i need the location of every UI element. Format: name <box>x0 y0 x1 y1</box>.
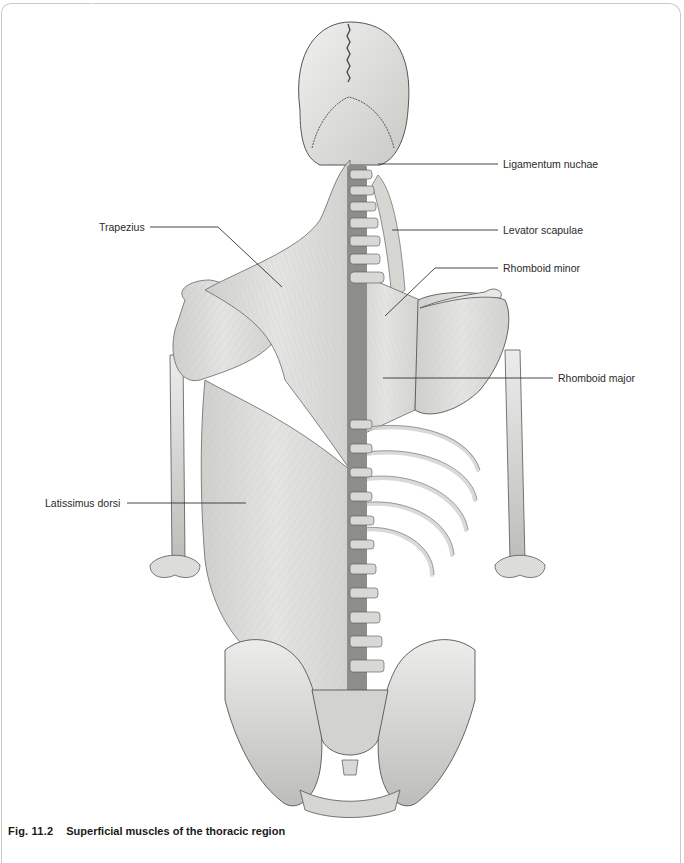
left-arm <box>150 355 200 578</box>
figure-title: Superficial muscles of the thoracic regi… <box>66 825 285 837</box>
right-arm <box>495 350 545 578</box>
label-latissimus-dorsi: Latissimus dorsi <box>45 497 120 509</box>
figure-caption: Fig. 11.2 Superficial muscles of the tho… <box>8 825 285 837</box>
skull <box>299 22 409 165</box>
label-rhomboid-minor: Rhomboid minor <box>503 262 580 274</box>
figure-number: Fig. 11.2 <box>8 825 53 837</box>
label-levator-scapulae: Levator scapulae <box>503 224 583 236</box>
right-structures <box>350 175 509 575</box>
label-trapezius: Trapezius <box>99 221 145 233</box>
label-rhomboid-major: Rhomboid major <box>558 372 635 384</box>
label-ligamentum-nuchae: Ligamentum nuchae <box>503 158 598 170</box>
vertebral-column <box>347 165 384 725</box>
